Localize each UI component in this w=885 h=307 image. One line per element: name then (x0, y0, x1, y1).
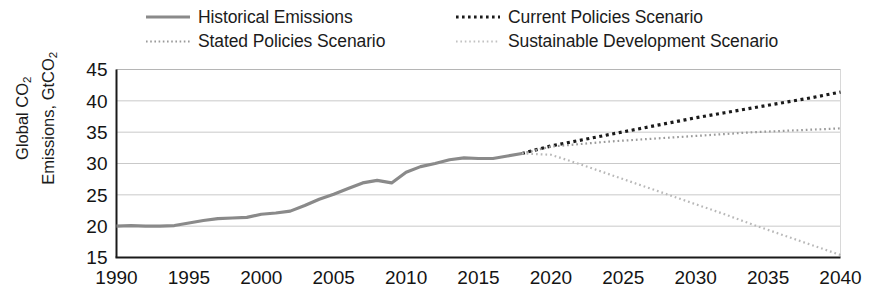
x-tick-label-2040: 2040 (819, 267, 861, 288)
y-tick-label-20: 20 (86, 216, 107, 237)
chart-plot-area: Global CO2 Emissions, GtCO2 152025303540… (0, 0, 885, 307)
x-tick-label-2025: 2025 (602, 267, 644, 288)
series-line-historical-emissions (117, 153, 522, 226)
y-tick-label-35: 35 (86, 122, 107, 143)
series-line-sustainable-development-scenario (522, 153, 841, 255)
data-series-group (117, 92, 841, 255)
chart-svg-canvas: 15202530354045 1990199520002005201020152… (0, 0, 885, 307)
y-tick-label-25: 25 (86, 185, 107, 206)
x-tick-label-2005: 2005 (313, 267, 355, 288)
x-tick-label-1995: 1995 (168, 267, 210, 288)
y-tick-labels-group: 15202530354045 (86, 59, 107, 268)
x-tick-label-2010: 2010 (385, 267, 427, 288)
x-tick-label-2015: 2015 (457, 267, 499, 288)
gridlines-group (117, 70, 841, 227)
x-tick-label-2020: 2020 (530, 267, 572, 288)
y-tick-label-45: 45 (86, 59, 107, 80)
chart-figure: Historical Emissions Stated Policies Sce… (0, 0, 885, 307)
x-tick-label-2035: 2035 (747, 267, 789, 288)
x-tick-label-2000: 2000 (240, 267, 282, 288)
y-tick-label-30: 30 (86, 153, 107, 174)
y-tick-label-15: 15 (86, 247, 107, 268)
x-tick-label-2030: 2030 (675, 267, 717, 288)
x-tick-labels-group: 1990199520002005201020152020202520302035… (95, 267, 861, 288)
x-tick-label-1990: 1990 (95, 267, 137, 288)
y-tick-label-40: 40 (86, 91, 107, 112)
